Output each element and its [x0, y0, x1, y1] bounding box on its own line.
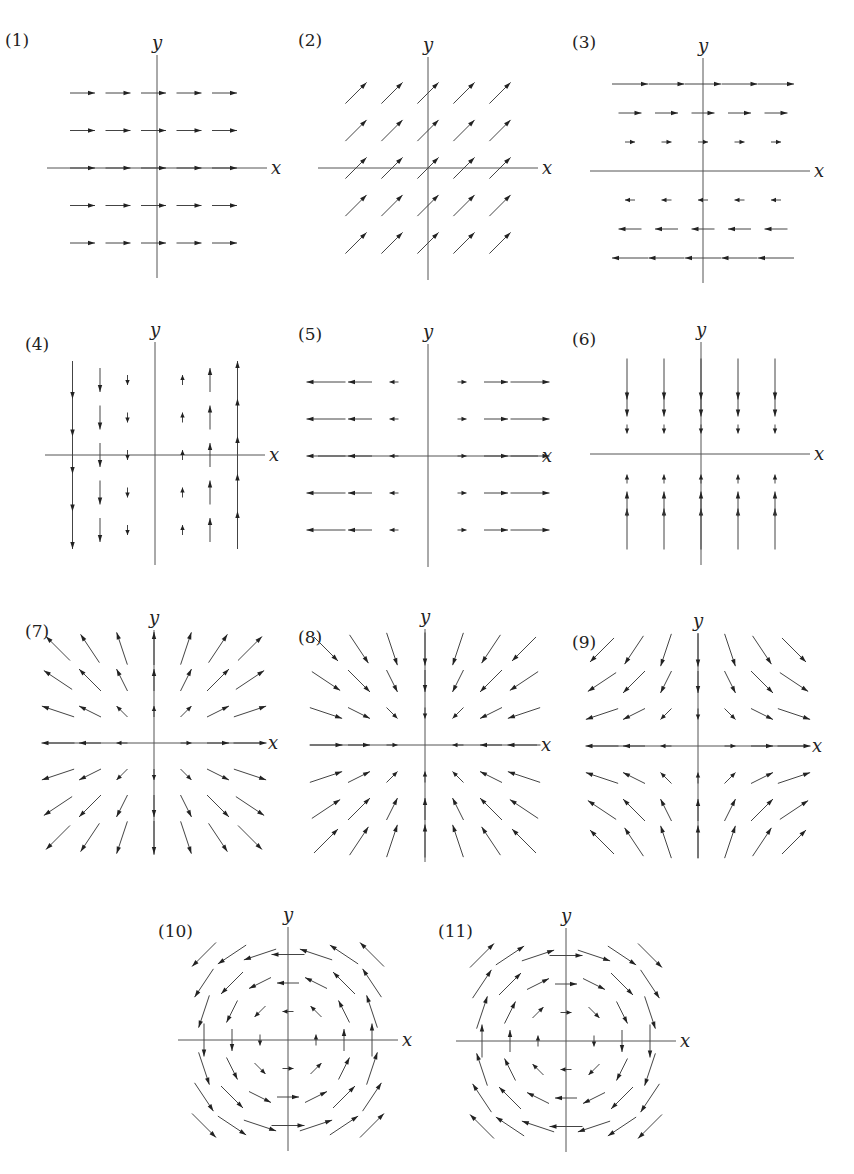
arrowhead [699, 410, 703, 417]
arrowhead [703, 140, 708, 144]
field-arrow [473, 970, 492, 998]
arrowhead [462, 454, 467, 458]
arrowhead [307, 454, 314, 458]
field-arrow [662, 425, 666, 434]
arrowhead [70, 467, 74, 474]
field-arrow [125, 525, 129, 535]
arrowhead [453, 743, 458, 747]
arrowhead [728, 227, 735, 231]
field-arrow [46, 825, 70, 849]
field-arrow [625, 140, 635, 144]
arrowhead [264, 1097, 271, 1102]
arrowhead [561, 1067, 566, 1071]
field-arrow [778, 709, 810, 720]
arrowhead [235, 399, 239, 406]
field-arrow [698, 140, 708, 144]
field-arrow [81, 823, 100, 851]
arrowhead [661, 744, 666, 748]
field-arrow [234, 741, 267, 745]
arrowhead [787, 82, 794, 86]
panel-11: (11)xy [438, 905, 690, 1152]
panel-label: (11) [438, 921, 473, 941]
field-arrow [484, 417, 508, 421]
arrowhead [542, 979, 549, 984]
arrowhead [699, 429, 703, 434]
arrowhead [508, 743, 515, 747]
field-arrow [311, 1006, 322, 1017]
arrowhead [249, 983, 256, 988]
field-arrow [79, 706, 101, 717]
field-arrow [423, 633, 427, 666]
arrowhead [453, 685, 458, 692]
arrowhead [159, 241, 166, 245]
arrowhead [625, 475, 629, 480]
field-arrow [782, 638, 806, 662]
field-arrow [234, 706, 266, 717]
field-arrow [300, 1120, 332, 1131]
field-arrow [312, 672, 340, 691]
arrowhead [307, 417, 314, 421]
arrowhead [547, 950, 554, 954]
field-arrow [645, 996, 656, 1028]
field-arrow [345, 82, 366, 103]
panel-label: (4) [25, 334, 49, 354]
field-arrow [305, 1092, 327, 1103]
arrowhead [623, 714, 630, 719]
field-arrow [511, 454, 550, 458]
field-arrow [141, 203, 166, 207]
field-arrow [218, 945, 246, 964]
arrowhead [88, 91, 95, 95]
field-arrow [608, 1117, 636, 1136]
arrowhead [608, 1130, 615, 1136]
y-axis-label: y [422, 321, 434, 342]
arrowhead [257, 810, 264, 816]
arrowhead [625, 828, 631, 835]
field-arrow [381, 120, 402, 141]
arrowhead [363, 656, 369, 663]
field-arrow [661, 744, 672, 748]
field-arrow [177, 128, 202, 132]
field-arrow [181, 769, 192, 780]
arrowhead [510, 800, 517, 806]
arrowhead [625, 410, 629, 417]
field-arrow [310, 743, 343, 747]
arrowhead [235, 436, 239, 443]
field-arrow [235, 511, 239, 549]
arrowhead [152, 706, 156, 711]
arrowhead [222, 634, 228, 641]
arrowhead [550, 1124, 557, 1128]
arrowhead [208, 368, 212, 375]
arrowhead [98, 385, 102, 392]
field-arrow [661, 634, 672, 666]
field-arrow [484, 491, 508, 495]
panel-label: (2) [298, 30, 322, 50]
field-arrow [348, 454, 372, 458]
arrowhead [803, 773, 810, 777]
field-arrow [698, 198, 708, 202]
arrowhead [307, 491, 314, 495]
arrowhead [370, 1024, 374, 1031]
field-arrow [98, 518, 102, 542]
arrowhead [735, 198, 740, 202]
arrowhead [208, 518, 212, 525]
field-arrow [662, 359, 666, 400]
arrowhead [736, 393, 740, 400]
field-arrow [511, 380, 550, 384]
field-arrow [227, 1001, 238, 1023]
field-arrow [152, 706, 156, 717]
arrowhead [758, 256, 765, 260]
field-arrow [625, 492, 629, 517]
field-arrow [181, 706, 192, 717]
field-arrow [208, 518, 212, 542]
field-arrow [649, 256, 685, 260]
field-arrow [533, 1064, 544, 1075]
arrowhead [230, 1044, 234, 1051]
field-arrow [199, 995, 210, 1027]
x-axis-label: x [268, 732, 278, 753]
field-arrow [477, 1053, 488, 1085]
arrowhead [505, 1059, 510, 1066]
arrowhead [205, 1077, 209, 1084]
arrowhead [339, 1001, 344, 1008]
arrowhead [671, 111, 678, 115]
arrowhead [88, 166, 95, 170]
